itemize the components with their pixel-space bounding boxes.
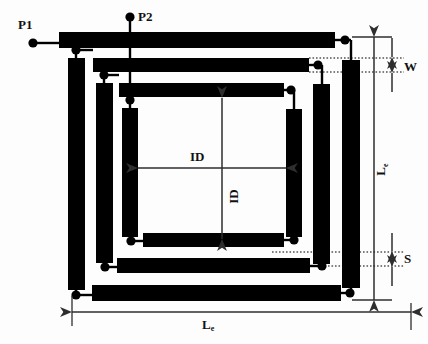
junction-dot-bl-mid <box>100 262 109 271</box>
junction-dot-bl-outer <box>71 290 80 299</box>
junction-dot-br-outer <box>345 288 354 297</box>
top-trace-middle <box>93 58 309 72</box>
junction-dot-br-inner <box>289 235 298 244</box>
dimension-le-horizontal <box>72 296 411 330</box>
junction-dot-tr-outer <box>340 35 349 44</box>
dimension-label-id-vertical: ID <box>227 189 240 203</box>
spiral-inductor-figure: P1 P2 W S Le Le ID ID <box>0 0 428 344</box>
left-trace-outer <box>68 58 85 290</box>
right-trace-outer <box>342 60 360 288</box>
le-vertical-base: L <box>373 167 388 176</box>
junction-dot-tr-mid <box>313 60 322 69</box>
le-horizontal-subscript: e <box>211 324 215 333</box>
bottom-trace-middle <box>117 258 310 273</box>
port-label-p1: P1 <box>18 18 32 31</box>
junction-dot-bl-inner <box>126 236 135 245</box>
le-vertical-subscript: e <box>381 164 390 168</box>
right-trace-inner <box>286 109 302 237</box>
port-label-p2: P2 <box>138 10 152 23</box>
dimension-label-s: S <box>404 252 411 265</box>
top-trace-inner <box>119 83 284 97</box>
junction-dot-p1 <box>28 38 37 47</box>
left-trace-inner <box>122 108 138 237</box>
right-trace-middle <box>313 84 330 264</box>
inductor-diagram-canvas <box>0 0 428 344</box>
junction-dot-tl-inner <box>125 95 134 104</box>
right-trace-group <box>286 60 360 288</box>
top-trace-outer <box>59 32 335 48</box>
dimension-label-le-vertical: Le <box>374 164 389 176</box>
bottom-trace-inner <box>143 233 284 247</box>
dimension-label-id-horizontal: ID <box>190 150 204 163</box>
junction-dot-tl-mid <box>99 70 108 79</box>
junction-dot-p2 <box>125 12 134 21</box>
dimension-label-le-horizontal: Le <box>202 318 214 333</box>
dimension-label-w: W <box>404 60 417 73</box>
bottom-trace-outer <box>92 285 341 301</box>
junction-dot-tl-outer <box>71 45 80 54</box>
junction-dot-tr-inner <box>286 85 295 94</box>
le-horizontal-base: L <box>202 317 211 332</box>
left-trace-middle <box>96 83 113 263</box>
